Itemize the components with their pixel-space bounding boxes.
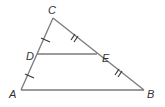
label-b: B — [147, 88, 154, 100]
label-e: E — [102, 52, 110, 64]
triangle-diagram: C D E A B — [0, 0, 165, 107]
double-tick-mark-ce — [71, 34, 78, 42]
label-c: C — [48, 4, 56, 16]
double-tick-mark-eb — [115, 69, 122, 77]
label-d: D — [26, 50, 34, 62]
label-a: A — [8, 88, 16, 100]
